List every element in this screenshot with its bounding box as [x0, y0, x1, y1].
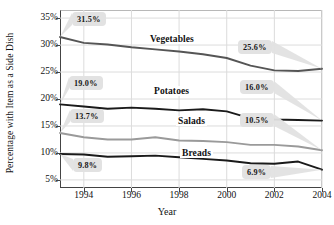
y-tick-mark — [56, 180, 60, 181]
x-tick-mark — [227, 188, 228, 192]
series-label-breads: Breads — [180, 148, 213, 158]
y-tick-mark — [56, 153, 60, 154]
x-tick-mark — [179, 188, 180, 192]
line-chart: Percentage with Item as a Side Dish 5%10… — [0, 0, 334, 225]
y-tick-mark — [56, 99, 60, 100]
series-label-potatoes: Potatoes — [152, 86, 191, 96]
callout-breads-start: 9.8% — [73, 158, 102, 172]
x-tick-mark — [131, 188, 132, 192]
x-tick-1998: 1998 — [170, 191, 189, 201]
series-label-salads: Salads — [176, 116, 207, 126]
x-tick-2004: 2004 — [313, 191, 332, 201]
y-axis-tick-labels: 5%10%15%20%25%30%35% — [22, 0, 58, 205]
y-tick-mark — [56, 126, 60, 127]
y-axis-title: Percentage with Item as a Side Dish — [5, 32, 15, 173]
x-tick-1994: 1994 — [74, 191, 93, 201]
x-tick-2002: 2002 — [265, 191, 284, 201]
y-axis-title-wrap: Percentage with Item as a Side Dish — [0, 0, 20, 205]
x-tick-mark — [84, 188, 85, 192]
y-tick-mark — [56, 45, 60, 46]
y-tick-mark — [56, 18, 60, 19]
y-tick-mark — [56, 72, 60, 73]
callout-breads-end: 6.9% — [242, 165, 271, 179]
callout-potatoes-end: 16.0% — [240, 80, 274, 94]
x-tick-mark — [322, 188, 323, 192]
x-axis-title: Year — [0, 206, 334, 217]
callout-vegetables-end: 25.6% — [238, 40, 272, 54]
x-tick-1996: 1996 — [122, 191, 141, 201]
callout-potatoes-start: 19.0% — [69, 76, 103, 90]
callout-salads-start: 13.7% — [70, 109, 104, 123]
series-label-vegetables: Vegetables — [148, 34, 196, 44]
callout-salads-end: 10.5% — [240, 113, 274, 127]
callout-vegetables-start: 31.5% — [72, 12, 106, 26]
x-tick-mark — [274, 188, 275, 192]
x-tick-2000: 2000 — [217, 191, 236, 201]
